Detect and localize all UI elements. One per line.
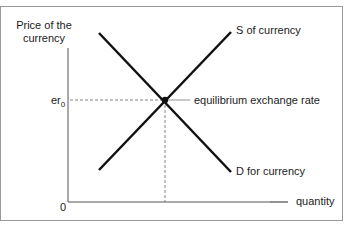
demand-label: D for currency <box>236 165 306 177</box>
x-axis-label: quantity <box>296 195 335 207</box>
origin-label: 0 <box>60 201 66 213</box>
y-axis-label-line1: Price of the <box>16 19 72 31</box>
equilibrium-point <box>162 97 168 103</box>
exchange-rate-diagram: Price of the currency er0 0 S of currenc… <box>0 0 355 228</box>
equilibrium-label: equilibrium exchange rate <box>194 94 320 106</box>
supply-label: S of currency <box>236 24 301 36</box>
y-axis-label-line2: currency <box>23 32 66 44</box>
